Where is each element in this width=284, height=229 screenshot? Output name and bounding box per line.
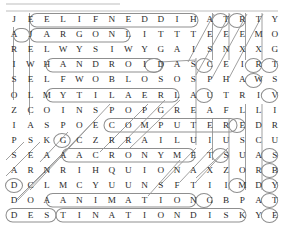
grid-cell[interactable]: I — [218, 178, 234, 193]
grid-cell[interactable]: A — [6, 27, 22, 42]
grid-cell[interactable]: I — [71, 163, 87, 178]
grid-cell[interactable]: U — [169, 118, 185, 133]
grid-cell[interactable]: T — [120, 208, 136, 223]
grid-cell[interactable]: M — [234, 178, 250, 193]
grid-cell[interactable]: I — [267, 103, 283, 118]
grid-cell[interactable]: R — [104, 57, 120, 72]
grid-cell[interactable]: R — [153, 88, 169, 103]
grid-cell[interactable]: P — [104, 103, 120, 118]
grid-cell[interactable]: R — [55, 163, 71, 178]
grid-cell[interactable]: S — [202, 42, 218, 57]
grid-cell[interactable]: L — [55, 12, 71, 27]
grid-cell[interactable]: N — [87, 208, 103, 223]
grid-cell[interactable]: A — [71, 148, 87, 163]
grid-cell[interactable]: I — [71, 208, 87, 223]
grid-cell[interactable]: N — [218, 42, 234, 57]
grid-cell[interactable]: R — [104, 133, 120, 148]
grid-cell[interactable]: T — [185, 178, 201, 193]
grid-cell[interactable]: C — [22, 103, 38, 118]
grid-cell[interactable]: N — [136, 178, 152, 193]
grid-cell[interactable]: B — [104, 72, 120, 87]
grid-cell[interactable]: R — [250, 163, 266, 178]
grid-cell[interactable]: D — [250, 178, 266, 193]
grid-cell[interactable]: S — [39, 118, 55, 133]
grid-cell[interactable]: A — [22, 118, 38, 133]
grid-cell[interactable]: T — [169, 27, 185, 42]
grid-cell[interactable]: D — [136, 12, 152, 27]
grid-cell[interactable]: P — [202, 72, 218, 87]
grid-cell[interactable]: S — [234, 133, 250, 148]
grid-cell[interactable]: W — [250, 72, 266, 87]
grid-cell[interactable]: E — [22, 12, 38, 27]
grid-cell[interactable]: E — [267, 208, 283, 223]
grid-cell[interactable]: U — [185, 133, 201, 148]
grid-cell[interactable]: A — [6, 163, 22, 178]
grid-cell[interactable]: Z — [218, 163, 234, 178]
grid-cell[interactable]: R — [104, 148, 120, 163]
grid-cell[interactable]: A — [39, 148, 55, 163]
grid-cell[interactable]: W — [120, 42, 136, 57]
grid-cell[interactable]: A — [202, 103, 218, 118]
grid-cell[interactable]: Y — [267, 178, 283, 193]
grid-cell[interactable]: A — [250, 148, 266, 163]
grid-cell[interactable]: E — [202, 27, 218, 42]
grid-cell[interactable]: I — [6, 118, 22, 133]
grid-cell[interactable]: I — [185, 42, 201, 57]
grid-cell[interactable]: R — [250, 57, 266, 72]
grid-cell[interactable]: A — [185, 163, 201, 178]
grid-cell[interactable]: T — [267, 57, 283, 72]
grid-cell[interactable]: A — [136, 133, 152, 148]
grid-cell[interactable]: H — [218, 72, 234, 87]
grid-cell[interactable]: X — [250, 42, 266, 57]
grid-cell[interactable]: U — [218, 133, 234, 148]
grid-cell[interactable]: L — [22, 88, 38, 103]
grid-cell[interactable]: I — [104, 42, 120, 57]
grid-cell[interactable]: G — [202, 193, 218, 208]
grid-cell[interactable]: O — [234, 163, 250, 178]
grid-cell[interactable]: C — [104, 118, 120, 133]
grid-cell[interactable]: P — [55, 118, 71, 133]
grid-cell[interactable]: M — [55, 178, 71, 193]
grid-cell[interactable]: D — [185, 208, 201, 223]
grid-cell[interactable]: S — [6, 148, 22, 163]
grid-cell[interactable]: V — [267, 88, 283, 103]
grid-cell[interactable]: O — [120, 103, 136, 118]
grid-cell[interactable]: T — [136, 193, 152, 208]
grid-cell[interactable]: F — [218, 103, 234, 118]
grid-cell[interactable]: M — [39, 88, 55, 103]
grid-cell[interactable]: A — [55, 148, 71, 163]
grid-cell[interactable]: O — [169, 72, 185, 87]
grid-cell[interactable]: O — [22, 193, 38, 208]
grid-cell[interactable]: F — [87, 12, 103, 27]
grid-cell[interactable]: E — [22, 42, 38, 57]
grid-cell[interactable]: D — [153, 57, 169, 72]
grid-cell[interactable]: B — [267, 163, 283, 178]
grid-cell[interactable]: P — [136, 103, 152, 118]
grid-cell[interactable]: R — [267, 118, 283, 133]
grid-cell[interactable]: O — [120, 118, 136, 133]
grid-cell[interactable]: F — [55, 72, 71, 87]
grid-cell[interactable]: S — [39, 208, 55, 223]
grid-cell[interactable]: R — [6, 42, 22, 57]
grid-cell[interactable]: G — [71, 27, 87, 42]
grid-cell[interactable]: U — [202, 88, 218, 103]
grid-cell[interactable]: P — [6, 133, 22, 148]
grid-cell[interactable]: O — [120, 57, 136, 72]
grid-cell[interactable]: P — [153, 118, 169, 133]
grid-cell[interactable]: I — [87, 88, 103, 103]
grid-cell[interactable]: C — [22, 178, 38, 193]
grid-cell[interactable]: O — [6, 88, 22, 103]
grid-cell[interactable]: U — [234, 148, 250, 163]
grid-cell[interactable]: E — [185, 148, 201, 163]
grid-cell[interactable]: H — [185, 12, 201, 27]
grid-cell[interactable]: Z — [87, 133, 103, 148]
grid-cell[interactable]: L — [120, 72, 136, 87]
grid-cell[interactable]: R — [55, 27, 71, 42]
grid-cell[interactable]: L — [39, 178, 55, 193]
grid-cell[interactable]: J — [6, 12, 22, 27]
grid-cell[interactable]: N — [71, 103, 87, 118]
grid-cell[interactable]: O — [267, 27, 283, 42]
grid-cell[interactable]: O — [71, 118, 87, 133]
grid-cell[interactable]: H — [39, 57, 55, 72]
grid-cell[interactable]: T — [71, 88, 87, 103]
